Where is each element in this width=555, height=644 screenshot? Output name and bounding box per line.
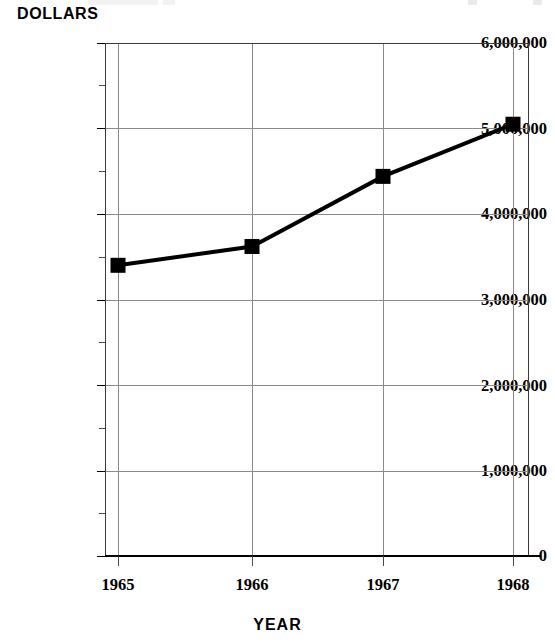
x-major-ticks [118, 556, 513, 566]
line-chart-figure: DOLLARS YEAR 6,000,000 5,000,000 4,000,0… [0, 0, 555, 644]
data-series-dollars [111, 117, 521, 273]
data-point-marker[interactable] [111, 258, 126, 273]
data-point-marker[interactable] [376, 169, 391, 184]
y-major-ticks [97, 43, 105, 556]
data-point-marker[interactable] [245, 239, 260, 254]
plot-area [0, 0, 555, 644]
data-point-marker[interactable] [506, 117, 521, 132]
series-line [118, 124, 513, 265]
vertical-gridlines [118, 43, 513, 566]
